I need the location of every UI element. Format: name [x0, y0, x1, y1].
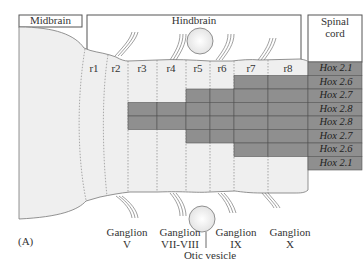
hox-cell-r7 — [234, 116, 268, 130]
rhombomere-label-r1: r1 — [84, 62, 104, 74]
hox-row-label: Hox 2.7 — [310, 129, 362, 143]
hox-cell-r8 — [268, 76, 308, 90]
spinal-cord-label-line1: Spinal — [308, 15, 362, 27]
hox-cell-r8 — [268, 130, 308, 144]
ganglion-x-line2: X — [265, 238, 315, 250]
rhombomere-label-r6: r6 — [212, 62, 232, 74]
rhombomere-label-r2: r2 — [106, 62, 126, 74]
hox-cell-r6 — [210, 116, 234, 130]
ganglion-x-label: Ganglion X — [265, 226, 315, 250]
hox-row-label: Hox 2.1 — [310, 61, 362, 75]
hox-cell-r3 — [128, 116, 157, 130]
hox-cell-r7 — [234, 130, 268, 144]
hox-cell-r4 — [157, 116, 186, 130]
rhombomere-label-r3: r3 — [132, 62, 152, 74]
hox-cell-r3 — [128, 103, 157, 117]
otic-vesicle-label: Otic vesicle — [170, 249, 250, 261]
spinal-cord-label: Spinal cord — [308, 15, 362, 39]
hox-row-label: Hox 2.8 — [310, 115, 362, 129]
hox-row-label: Hox 2.8 — [310, 102, 362, 116]
ganglion-ix-label: Ganglion IX — [211, 226, 261, 250]
hox-cell-r5 — [186, 103, 210, 117]
ganglion-v-label: Ganglion V — [102, 226, 152, 250]
rhombomere-label-r4: r4 — [161, 62, 181, 74]
hox-cell-r4 — [157, 103, 186, 117]
hox-cell-r8 — [268, 103, 308, 117]
panel-label: (A) — [18, 235, 42, 247]
hox-cell-r5 — [186, 116, 210, 130]
ganglion-v-line2: V — [102, 238, 152, 250]
rhombomere-label-r7: r7 — [241, 62, 261, 74]
hox-cell-r8 — [268, 116, 308, 130]
hox-cell-r7 — [234, 76, 268, 90]
ganglion-vii-viii-label: Ganglion VII-VIII — [155, 226, 205, 250]
rhombomere-label-r8: r8 — [278, 62, 298, 74]
midbrain-label: Midbrain — [19, 14, 82, 26]
ganglion-vii-viii-line1: Ganglion — [155, 226, 205, 238]
hox-cell-r8 — [268, 89, 308, 103]
hox-row-label: Hox 2.6 — [310, 142, 362, 156]
hox-cell-r8 — [268, 143, 308, 157]
spinal-cord-label-line2: cord — [308, 27, 362, 39]
hox-row-label: Hox 2.6 — [310, 75, 362, 89]
ganglion-x-line1: Ganglion — [265, 226, 315, 238]
hox-cell-r6 — [210, 89, 234, 103]
otic-vesicle-top — [187, 28, 213, 54]
rhombomere-label-r5: r5 — [188, 62, 208, 74]
hox-cell-r5 — [186, 89, 210, 103]
hox-cell-r7 — [234, 103, 268, 117]
hox-cell-r6 — [210, 103, 234, 117]
ganglion-ix-line1: Ganglion — [211, 226, 261, 238]
hox-cell-r6 — [210, 130, 234, 144]
hox-cell-r7 — [234, 89, 268, 103]
hindbrain-label: Hindbrain — [87, 14, 301, 26]
hox-cell-r7 — [234, 143, 268, 157]
hox-cell-r5 — [186, 130, 210, 144]
hox-row-label: Hox 2.1 — [310, 156, 362, 170]
ganglion-v-line1: Ganglion — [102, 226, 152, 238]
hox-row-label: Hox 2.7 — [310, 88, 362, 102]
